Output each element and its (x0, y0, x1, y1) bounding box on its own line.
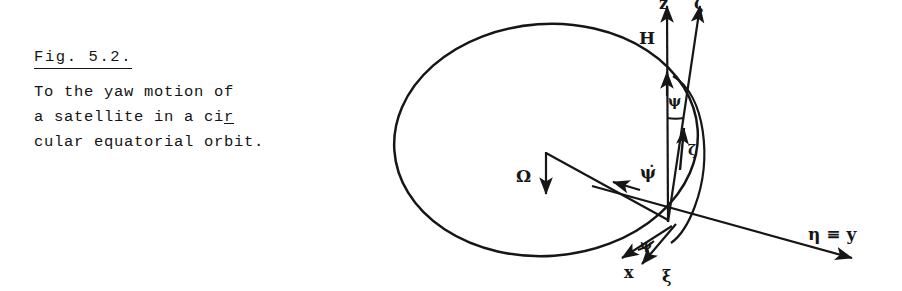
angular-momentum-vector (667, 6, 668, 222)
yaw-rate-label: ψ̇ (640, 162, 656, 182)
figure-container: Fig. 5.2. To the yaw motion of a satelli… (0, 0, 902, 291)
yaw-angle-label-lower: ψ (640, 237, 652, 252)
yaw-angle-arc-upper (667, 118, 684, 119)
yaw-angle-label-upper: ψ (668, 93, 681, 109)
zeta-axis-top-label: ζ (694, 0, 703, 13)
orbit-diagram-svg: Ω ψ̇ η ≡ y H z ζ ζ ψ x (0, 0, 902, 291)
z-axis-top-label: z (659, 0, 668, 13)
x-axis-label: x (624, 263, 634, 282)
orbit-diagram: Ω ψ̇ η ≡ y H z ζ ζ ψ x (0, 0, 902, 291)
eta-y-label: η ≡ y (808, 224, 857, 244)
orbit-ellipse (386, 14, 705, 267)
eta-y-axis (592, 186, 852, 258)
omega-label: Ω (516, 166, 531, 186)
yaw-rate-arrow (613, 182, 640, 190)
zeta-vector-label: ζ (688, 142, 696, 158)
angular-momentum-label: H (639, 28, 655, 48)
xi-axis-label: ξ (662, 267, 671, 286)
